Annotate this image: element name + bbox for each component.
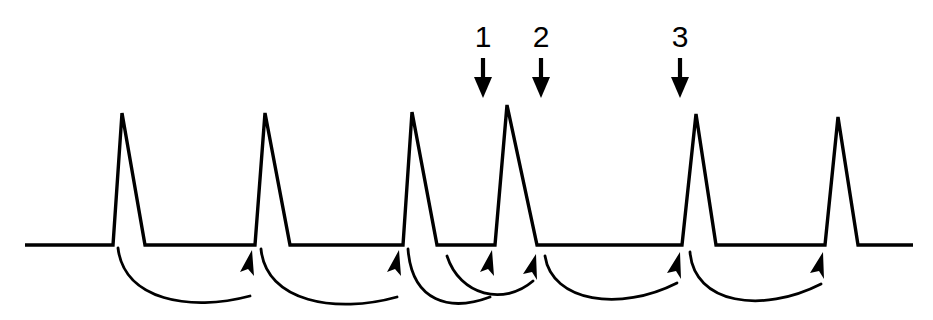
arc-arrowhead-icon xyxy=(240,250,254,276)
marker-arrow-group xyxy=(474,58,689,98)
arc-arrowhead-icon xyxy=(523,254,537,280)
arc-arrowhead-icon xyxy=(480,250,494,276)
ecg-trace-svg xyxy=(0,0,933,320)
interval-arc-group xyxy=(118,248,821,304)
arc-arrowhead-icon xyxy=(667,252,681,279)
arc-arrowhead-icon xyxy=(387,250,401,276)
arc-arrowhead-group xyxy=(240,250,824,280)
interval-arc xyxy=(118,248,250,303)
interval-arc xyxy=(690,252,821,301)
arc-arrowhead-icon xyxy=(810,252,824,279)
marker-arrow-1-icon xyxy=(474,58,492,98)
marker-label-2: 2 xyxy=(526,22,556,52)
ecg-waveform-path xyxy=(25,105,913,245)
interval-arc xyxy=(408,249,490,303)
marker-arrow-2-icon xyxy=(532,58,550,98)
marker-arrow-3-icon xyxy=(671,58,689,98)
interval-arc xyxy=(261,249,397,304)
interval-arc xyxy=(545,256,677,299)
ecg-figure: 1 2 3 xyxy=(0,0,933,320)
marker-label-3: 3 xyxy=(665,22,695,52)
marker-label-1: 1 xyxy=(468,22,498,52)
